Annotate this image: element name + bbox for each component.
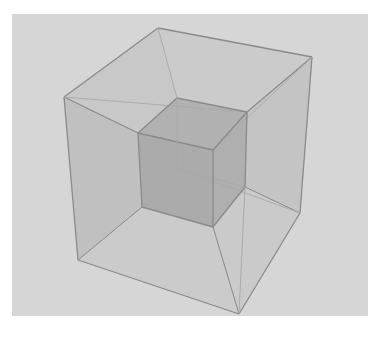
cube-diagram — [0, 0, 381, 339]
